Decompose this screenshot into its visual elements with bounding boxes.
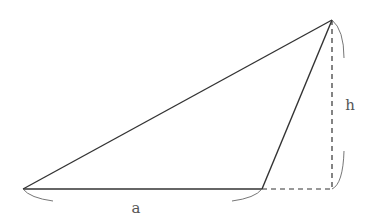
hypotenuse-side [23,20,332,189]
triangle-diagram: a h [0,0,373,219]
base-brace-right [232,189,262,201]
height-label: h [345,96,355,114]
height-brace-top [332,20,344,58]
height-brace-bottom [332,151,344,189]
base-label: a [132,199,141,217]
base-brace-left [23,189,53,201]
right-side [262,20,332,189]
